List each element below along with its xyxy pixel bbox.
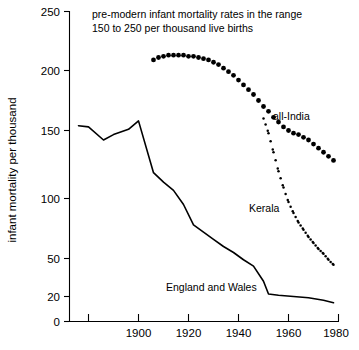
x-axis-tick-labels: 1900 1920 1940 1960 1980	[126, 327, 349, 339]
x-axis-ticks	[89, 314, 339, 322]
y-tick-label-0: 0	[54, 316, 60, 328]
chart-title-line-1: pre-modern infant mortality rates in the…	[92, 8, 302, 20]
y-axis-title: infant mortality per thousand	[6, 97, 18, 242]
y-axis-tick-labels: 0 20 50 100 150 200 250	[41, 6, 60, 328]
y-tick-label-20: 20	[47, 291, 60, 303]
series-dots-kerala	[262, 117, 335, 266]
data-series-layer	[79, 53, 336, 303]
x-tick-label-1920: 1920	[176, 327, 202, 339]
series-label-all-india: all-India	[273, 110, 310, 122]
series-dots-all-india	[151, 53, 336, 163]
series-label-kerala: Kerala	[249, 202, 280, 214]
y-tick-label-150: 150	[41, 125, 60, 137]
chart-title-line-2: 150 to 250 per thousand live births	[92, 22, 253, 34]
x-tick-label-1980: 1980	[323, 327, 349, 339]
series-line-england-and-wales	[79, 121, 334, 303]
infant-mortality-chart: 0 20 50 100 150 200 250 1900 1920 1940 1…	[0, 0, 359, 350]
series-label-england-and-wales: England and Wales	[166, 281, 257, 293]
y-tick-label-200: 200	[41, 65, 60, 77]
y-tick-label-50: 50	[47, 253, 60, 265]
x-tick-label-1960: 1960	[276, 327, 302, 339]
x-tick-label-1940: 1940	[226, 327, 252, 339]
chart-plot-area: 0 20 50 100 150 200 250 1900 1920 1940 1…	[0, 0, 359, 350]
x-tick-label-1900: 1900	[126, 327, 152, 339]
y-axis-ticks	[64, 12, 70, 322]
y-tick-label-100: 100	[41, 193, 60, 205]
y-tick-label-250: 250	[41, 6, 60, 18]
